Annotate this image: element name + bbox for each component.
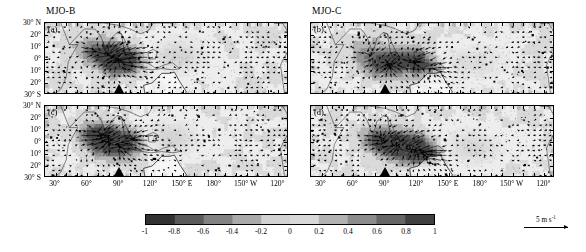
x-tick	[481, 173, 482, 176]
x-tick	[460, 173, 461, 176]
x-tick	[513, 90, 514, 93]
x-tick	[502, 23, 503, 26]
y-tick	[45, 130, 48, 131]
x-tick	[343, 90, 344, 93]
x-tick	[470, 23, 471, 26]
colorbar-tick-label: -0.8	[159, 227, 189, 236]
y-tick	[284, 35, 287, 36]
x-tick	[66, 90, 67, 93]
colorbar-tick-label: 0	[275, 227, 305, 236]
x-tick	[544, 90, 545, 93]
y-tick	[550, 166, 553, 167]
x-tick	[162, 106, 163, 109]
x-tick	[236, 90, 237, 93]
reference-vector-units: m s	[540, 216, 552, 224]
longitude-marker-triangle	[114, 84, 124, 93]
x-tick	[183, 106, 184, 109]
x-tick	[130, 23, 131, 26]
x-tick	[236, 106, 237, 109]
x-tick	[406, 173, 407, 176]
x-tick	[172, 23, 173, 26]
x-tick	[449, 90, 450, 93]
x-tick	[396, 23, 397, 26]
x-tick	[268, 173, 269, 176]
x-tick	[87, 90, 88, 93]
colorbar-tick-label: 0.6	[362, 227, 392, 236]
x-tick	[385, 106, 386, 109]
x-tick	[278, 106, 279, 109]
x-tick	[257, 90, 258, 93]
x-tick	[353, 173, 354, 176]
x-tick	[194, 173, 195, 176]
y-axis-tick-label: 10°	[1, 125, 41, 134]
x-tick	[98, 173, 99, 176]
longitude-marker-triangle	[380, 84, 390, 93]
arrow-head	[564, 225, 568, 229]
x-tick	[343, 23, 344, 26]
x-tick	[204, 90, 205, 93]
column-title-left: MJO-B	[46, 6, 76, 16]
x-tick	[406, 23, 407, 26]
y-tick	[550, 59, 553, 60]
y-tick	[311, 47, 314, 48]
colorbar-tick-label: 0.4	[333, 227, 363, 236]
x-tick	[215, 90, 216, 93]
x-tick	[204, 23, 205, 26]
x-tick	[278, 90, 279, 93]
x-tick	[87, 23, 88, 26]
map-panel-d[interactable]: (d)	[310, 105, 554, 177]
x-tick	[534, 173, 535, 176]
map-panel-a[interactable]: (a)	[44, 22, 288, 94]
y-tick	[284, 142, 287, 143]
x-tick	[481, 106, 482, 109]
x-tick	[140, 173, 141, 176]
x-tick	[428, 106, 429, 109]
y-tick	[45, 118, 48, 119]
x-tick	[236, 23, 237, 26]
y-axis-tick-label: 30° S	[1, 90, 41, 99]
x-tick	[417, 23, 418, 26]
y-tick	[550, 71, 553, 72]
x-tick	[491, 173, 492, 176]
y-tick	[311, 130, 314, 131]
reference-vector-label: 5 m s-1	[524, 214, 568, 224]
x-tick	[109, 90, 110, 93]
x-tick	[66, 173, 67, 176]
y-tick	[311, 154, 314, 155]
x-tick	[247, 106, 248, 109]
x-tick	[417, 90, 418, 93]
x-tick	[491, 23, 492, 26]
colorbar-tick-label: -0.4	[217, 227, 247, 236]
x-tick	[77, 173, 78, 176]
x-axis-tick-label: 120°	[523, 179, 563, 188]
x-tick	[130, 90, 131, 93]
x-axis-tick-label: 120°	[257, 179, 297, 188]
x-tick	[268, 90, 269, 93]
x-tick	[257, 23, 258, 26]
y-tick	[550, 118, 553, 119]
x-tick	[151, 173, 152, 176]
x-tick	[364, 173, 365, 176]
y-tick	[284, 47, 287, 48]
y-tick	[45, 142, 48, 143]
y-axis-tick-label: 0°	[1, 54, 41, 63]
x-tick	[98, 90, 99, 93]
colorbar-tick-label: 1	[420, 227, 450, 236]
x-tick	[162, 23, 163, 26]
x-tick	[215, 173, 216, 176]
x-tick	[449, 23, 450, 26]
map-panel-b[interactable]: (b)	[310, 22, 554, 94]
map-panel-c[interactable]: (c)	[44, 105, 288, 177]
y-axis-tick-label: 20°	[1, 161, 41, 170]
x-tick	[172, 173, 173, 176]
y-tick	[550, 142, 553, 143]
x-tick	[406, 106, 407, 109]
x-tick	[523, 23, 524, 26]
y-tick	[311, 142, 314, 143]
x-tick	[523, 106, 524, 109]
y-tick	[45, 35, 48, 36]
y-tick	[284, 71, 287, 72]
x-tick	[332, 23, 333, 26]
x-tick	[481, 23, 482, 26]
x-tick	[502, 106, 503, 109]
